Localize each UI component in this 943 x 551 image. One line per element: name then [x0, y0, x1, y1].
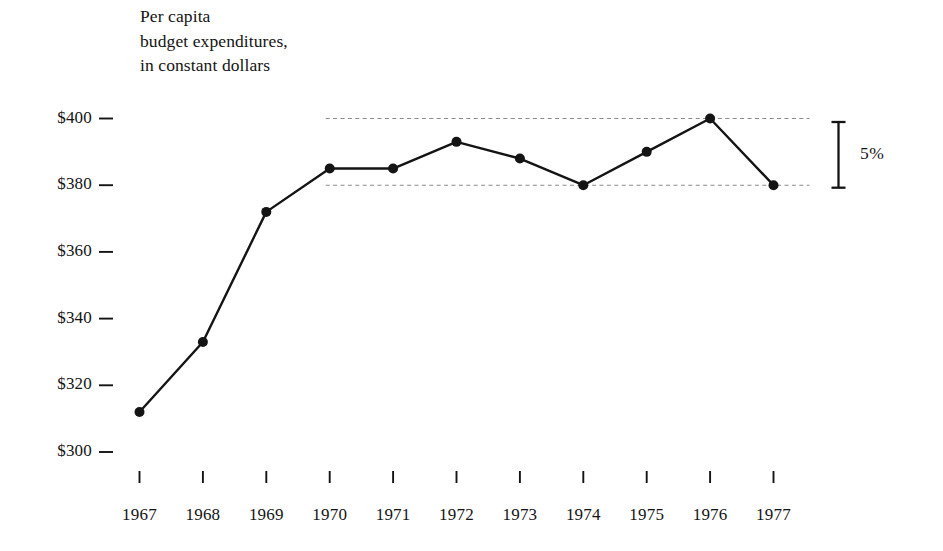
x-axis-label-1969: 1969	[231, 505, 301, 525]
x-axis-label-1975: 1975	[612, 505, 682, 525]
range-bracket-icon	[832, 122, 846, 188]
data-points	[135, 114, 779, 417]
y-axis-label-360: $360	[57, 241, 92, 261]
data-point-1969	[261, 207, 271, 217]
x-axis-label-1974: 1974	[548, 505, 618, 525]
x-axis-label-1972: 1972	[422, 505, 492, 525]
data-point-1974	[578, 180, 588, 190]
data-point-1975	[642, 147, 652, 157]
x-axis-ticks	[140, 471, 774, 483]
y-axis-label-340: $340	[57, 308, 92, 328]
x-axis-label-1976: 1976	[675, 505, 745, 525]
data-point-1971	[388, 164, 398, 174]
data-point-1970	[325, 164, 335, 174]
plot-area	[0, 0, 943, 551]
x-axis-label-1971: 1971	[358, 505, 428, 525]
chart-figure: Per capita budget expenditures, in const…	[0, 0, 943, 551]
range-annotation-label: 5%	[860, 143, 884, 164]
y-axis-label-320: $320	[57, 374, 92, 394]
plot-canvas	[0, 0, 943, 551]
data-line	[140, 119, 774, 412]
data-point-1972	[452, 137, 462, 147]
series-polyline	[140, 119, 774, 412]
x-axis-label-1970: 1970	[295, 505, 365, 525]
x-axis-label-1967: 1967	[105, 505, 175, 525]
y-axis-label-380: $380	[57, 174, 92, 194]
x-axis-label-1977: 1977	[739, 505, 809, 525]
data-point-1976	[705, 114, 715, 124]
x-axis-label-1973: 1973	[485, 505, 555, 525]
data-point-1973	[515, 154, 525, 164]
data-point-1977	[769, 180, 779, 190]
x-axis-label-1968: 1968	[168, 505, 238, 525]
y-axis-label-400: $400	[57, 108, 92, 128]
y-axis-label-300: $300	[57, 441, 92, 461]
data-point-1968	[198, 337, 208, 347]
data-point-1967	[135, 407, 145, 417]
y-axis-ticks	[99, 119, 113, 453]
reference-lines	[326, 119, 810, 186]
